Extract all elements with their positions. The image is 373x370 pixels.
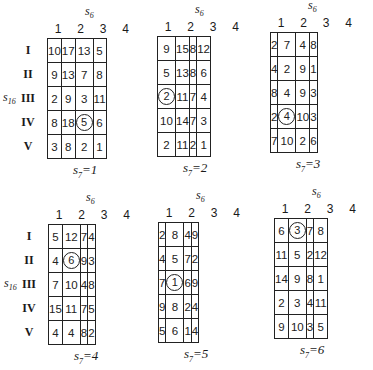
grid-cell: 4: [62, 321, 80, 345]
grid-cell: 6: [62, 249, 80, 273]
cell-value: 11: [275, 249, 287, 261]
grid-cell: 5: [166, 247, 184, 271]
grid-cell: 4: [306, 291, 313, 315]
grid-cell: 2: [158, 133, 176, 157]
grid-cell: 2: [278, 57, 296, 81]
cell-value: 4: [184, 229, 190, 241]
circled-value: 4: [278, 108, 295, 125]
grid-cell: 1: [93, 135, 106, 159]
grid-cell: 15: [176, 37, 190, 61]
cell-value: 8: [317, 225, 323, 237]
cell-value: 13: [62, 69, 75, 81]
grid-cell: 4: [159, 247, 166, 271]
grid-row: 4572: [159, 247, 199, 271]
cell-value: 4: [192, 325, 198, 337]
cell-value: 7: [159, 277, 165, 289]
grid-cell: 18: [61, 111, 75, 135]
grid-cell: 7: [80, 225, 87, 249]
grid-cell: 2: [48, 87, 62, 111]
s7-value: =1: [82, 162, 97, 177]
cell-value: 8: [81, 327, 87, 339]
grid-cell: 5: [159, 319, 166, 343]
grid-row: 71048: [49, 273, 96, 297]
grid-cell: 8: [93, 63, 106, 87]
grid-cell: 2: [191, 247, 198, 271]
column-tick: 2: [180, 20, 202, 34]
grid-row: 915812: [158, 37, 211, 61]
cell-value: 18: [62, 117, 75, 129]
grid-cell: 3: [88, 249, 95, 273]
cell-value: 9: [192, 277, 198, 289]
cell-value: 7: [271, 135, 277, 147]
cell-value: 8: [307, 273, 313, 285]
s7-label: s7=6: [300, 342, 324, 360]
grid-row: 21174: [158, 85, 211, 109]
cell-value: 3: [307, 321, 313, 333]
cell-value: 7: [81, 303, 87, 315]
grid-row: 81856: [48, 111, 107, 135]
cell-value: 4: [68, 327, 74, 339]
cell-value: 12: [314, 249, 327, 261]
value-grid: 28494572716998245614: [158, 222, 199, 343]
cell-value: 2: [159, 229, 165, 241]
cell-value: 7: [52, 279, 58, 291]
row-tick: III: [18, 277, 40, 292]
grid-cell: 3: [197, 109, 211, 133]
cell-value: 8: [190, 43, 196, 55]
column-tick: 2: [71, 208, 93, 222]
row-axis-label: s16: [4, 276, 17, 292]
axis-sub: 6: [201, 195, 205, 204]
grid-cell: 2: [88, 321, 95, 345]
column-tick: 4: [226, 206, 248, 220]
grid-cell: 9: [159, 295, 166, 319]
grid-cell: 8: [271, 81, 278, 105]
grid-cell: 2: [189, 133, 196, 157]
grid-cell: 4: [88, 225, 95, 249]
grid-cell: 9: [288, 267, 306, 291]
grid-cell: 4: [278, 105, 296, 129]
column-tick: 1: [274, 202, 296, 216]
cell-value: 12: [197, 43, 210, 55]
cell-value: 7: [81, 231, 87, 243]
grid-cell: 4: [278, 81, 296, 105]
grid-row: 6378: [275, 219, 328, 243]
cell-value: 8: [88, 279, 94, 291]
cell-value: 4: [159, 253, 165, 265]
cell-value: 9: [65, 93, 71, 105]
cell-value: 2: [192, 253, 198, 265]
s7-label: s7=5: [184, 346, 208, 364]
cell-value: 15: [176, 43, 189, 55]
grid-row: 29311: [48, 87, 107, 111]
grid-cell: 10: [62, 273, 80, 297]
grid-row: 4291: [271, 57, 318, 81]
column-tick: 3: [315, 16, 337, 30]
cell-value: 4: [271, 63, 277, 75]
cell-value: 4: [52, 327, 58, 339]
grid-cell: 4: [49, 321, 63, 345]
axis-sub: 16: [9, 283, 17, 292]
row-tick: I: [18, 229, 40, 244]
column-tick: 4: [115, 22, 137, 36]
circled-value: 2: [158, 88, 175, 105]
column-tick: 4: [225, 20, 247, 34]
grid-cell: 8: [48, 111, 62, 135]
row-axis-label: s16: [3, 90, 16, 106]
grid-cell: 6: [184, 271, 191, 295]
grid-cell: 9: [158, 37, 176, 61]
axis-sub: 6: [313, 5, 317, 14]
cell-value: 7: [190, 115, 196, 127]
grid-cell: 11: [176, 85, 190, 109]
cell-value: 9: [300, 87, 306, 99]
grid-cell: 5: [288, 243, 306, 267]
circled-value: 5: [76, 114, 93, 131]
grid-row: 91378: [48, 63, 107, 87]
grid-cell: 10: [288, 315, 306, 339]
grid-row: 21121: [158, 133, 211, 157]
row-tick: II: [17, 67, 39, 82]
grid-row: 2748: [271, 33, 318, 57]
grid-row: 9824: [159, 295, 199, 319]
cell-value: 11: [315, 297, 327, 309]
cell-value: 11: [176, 139, 188, 151]
circled-value: 1: [166, 274, 183, 291]
cell-value: 3: [81, 93, 87, 105]
